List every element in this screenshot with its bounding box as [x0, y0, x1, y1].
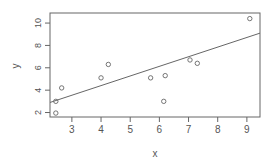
x-tick-label: 7 — [186, 124, 192, 135]
data-point — [106, 62, 110, 66]
y-tick-label: 8 — [33, 43, 43, 48]
y-tick-label: 6 — [33, 65, 43, 70]
data-point — [162, 99, 166, 103]
x-tick-label: 4 — [98, 124, 104, 135]
x-tick-label: 8 — [215, 124, 221, 135]
regression-line — [50, 33, 260, 102]
x-axis-label: x — [153, 148, 158, 159]
y-tick-label: 10 — [33, 18, 43, 28]
data-point — [148, 76, 152, 80]
scatter-plot: 3456789 246810 x y — [0, 0, 273, 168]
x-tick-label: 5 — [127, 124, 133, 135]
data-point — [195, 61, 199, 65]
y-axis-label: y — [10, 64, 21, 69]
x-axis: 3456789 — [69, 117, 250, 135]
x-tick-label: 3 — [69, 124, 75, 135]
x-tick-label: 9 — [244, 124, 250, 135]
data-points — [54, 16, 252, 115]
y-tick-label: 2 — [33, 110, 43, 115]
data-point — [188, 58, 192, 62]
y-axis: 246810 — [33, 18, 50, 115]
data-point — [99, 76, 103, 80]
plot-frame — [50, 13, 260, 117]
data-point — [59, 86, 63, 90]
data-point — [54, 111, 58, 115]
data-point — [163, 73, 167, 77]
data-point — [248, 16, 252, 20]
y-tick-label: 4 — [33, 88, 43, 93]
x-tick-label: 6 — [157, 124, 163, 135]
